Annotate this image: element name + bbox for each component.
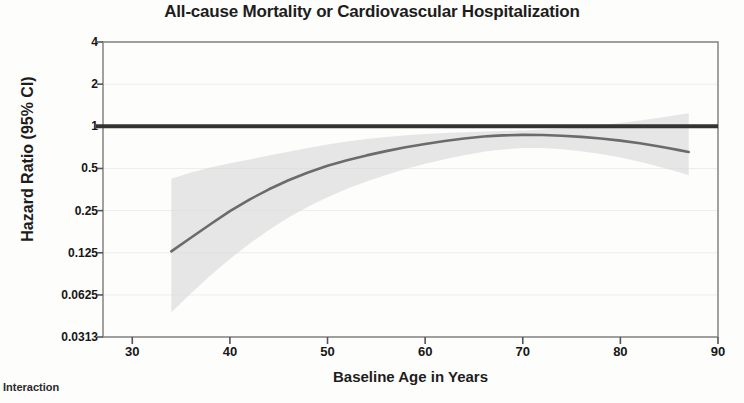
plot-area bbox=[0, 0, 744, 403]
footnote-text: Interaction bbox=[3, 381, 59, 393]
figure-container: All-cause Mortality or Cardiovascular Ho… bbox=[0, 0, 744, 403]
